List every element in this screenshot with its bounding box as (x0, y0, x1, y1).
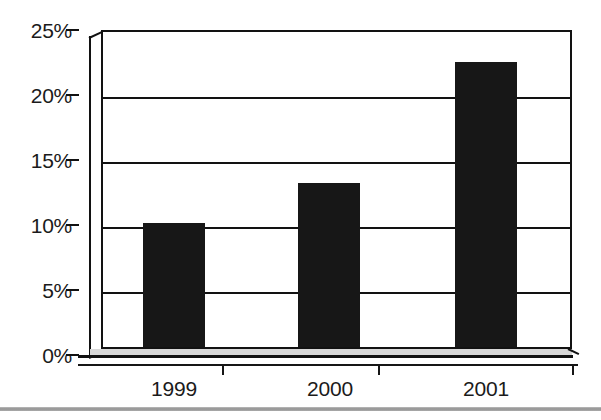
axis-floor-front-edge (78, 355, 573, 358)
bar-chart-figure: 25% 20% 15% 10% 5% 0% 1999 2000 2001 (0, 0, 601, 420)
scan-artifact-rule (0, 407, 601, 411)
axis-wall-outer-edge (89, 36, 91, 358)
y-tick-mark-15 (66, 159, 79, 161)
y-tick-mark-20 (66, 94, 79, 96)
y-tick-label-20: 20% (10, 85, 72, 106)
x-tick-mark-2 (378, 364, 380, 375)
y-tick-mark-10 (66, 224, 79, 226)
x-tick-mark-1 (222, 364, 224, 375)
y-tick-label-25: 25% (10, 20, 72, 41)
x-tick-mark-3 (572, 364, 574, 375)
bar-1999 (143, 223, 205, 357)
x-axis-line (78, 364, 578, 366)
axis-floor-back-edge (103, 347, 570, 349)
y-tick-mark-5 (66, 289, 79, 291)
y-tick-label-15: 15% (10, 150, 72, 171)
bar-2001 (455, 62, 517, 357)
y-tick-label-5: 5% (10, 280, 72, 301)
bar-2000 (298, 183, 360, 357)
y-axis: 25% 20% 15% 10% 5% 0% (0, 0, 72, 420)
x-tick-label-2001: 2001 (436, 378, 536, 400)
x-tick-label-1999: 1999 (124, 378, 224, 400)
plot-area (103, 30, 572, 357)
y-tick-label-10: 10% (10, 215, 72, 236)
y-tick-label-0: 0% (10, 345, 72, 366)
x-tick-label-2000: 2000 (280, 378, 380, 400)
y-tick-mark-25 (66, 29, 79, 31)
